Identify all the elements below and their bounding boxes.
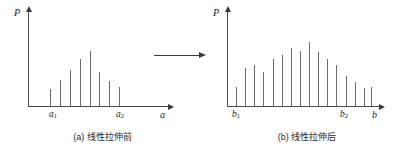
histogram-bar — [364, 88, 365, 106]
y-axis-line-after — [227, 12, 228, 106]
histogram-bar — [109, 81, 110, 106]
x-axis-line-after — [227, 106, 379, 107]
histogram-bar — [99, 72, 100, 106]
tick-label-a1: a1 — [49, 110, 57, 120]
histogram-bar — [327, 59, 328, 106]
histogram-bar — [254, 65, 255, 106]
histogram-bar — [119, 87, 120, 106]
histogram-bar — [60, 80, 61, 106]
histogram-bar — [355, 82, 356, 106]
plot-area-after: P b b1 b2 — [227, 10, 387, 110]
x-axis-label-after: b — [372, 110, 377, 120]
plot-area-before: P a a1 a2 — [28, 10, 176, 110]
histogram-bar — [336, 65, 337, 106]
x-axis-arrow-after — [379, 104, 385, 110]
x-axis-line-before — [28, 106, 168, 107]
histogram-bar — [245, 68, 246, 106]
panel-histogram-before: P a a1 a2 (a) 线性拉伸前 — [0, 0, 205, 153]
histogram-bar — [371, 87, 372, 106]
y-axis-label-before: P — [14, 8, 20, 18]
arrow-shaft — [154, 55, 200, 56]
histogram-bar — [309, 42, 310, 106]
tick-label-b2: b2 — [340, 110, 348, 120]
x-axis-arrow-before — [168, 104, 174, 110]
histogram-bar — [282, 55, 283, 106]
histogram-bar — [273, 59, 274, 106]
caption-before: (a) 线性拉伸前 — [0, 130, 205, 143]
x-axis-label-before: a — [160, 110, 165, 120]
figure-container: P a a1 a2 (a) 线性拉伸前 P b b1 b2 (b) 线性拉伸后 — [0, 0, 409, 153]
y-axis-label-after: P — [213, 8, 219, 18]
tick-label-b1: b1 — [232, 110, 240, 120]
y-axis-arrow-after — [225, 6, 231, 12]
histogram-bar — [346, 76, 347, 106]
y-axis-arrow-before — [26, 6, 32, 12]
histogram-bar — [263, 72, 264, 106]
transform-arrow-icon — [154, 52, 206, 59]
histogram-bar — [236, 87, 237, 106]
histogram-bar — [70, 70, 71, 106]
histogram-bar — [300, 51, 301, 106]
histogram-bar — [90, 51, 91, 106]
caption-after: (b) 线性拉伸后 — [205, 130, 409, 143]
histogram-bar — [318, 52, 319, 106]
histogram-bar — [291, 48, 292, 106]
histogram-bar — [50, 89, 51, 106]
y-axis-line-before — [28, 12, 29, 106]
histogram-bar — [80, 59, 81, 106]
panel-histogram-after: P b b1 b2 (b) 线性拉伸后 — [205, 0, 409, 153]
tick-label-a2: a2 — [116, 110, 124, 120]
